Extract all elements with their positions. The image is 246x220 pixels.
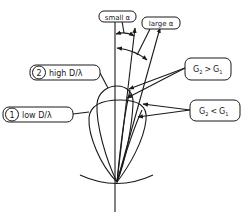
small-alpha-leader bbox=[122, 21, 124, 33]
low-text: low D/λ bbox=[22, 111, 52, 120]
low-leader bbox=[73, 112, 89, 114]
g2-less-g1-label: G2<G1 bbox=[190, 100, 240, 121]
small-alpha-text: small α bbox=[105, 14, 131, 22]
low-number: 1 bbox=[9, 111, 14, 120]
g2-greater-g1-label: G2>G1 bbox=[185, 58, 231, 80]
g-greater-pointer-2 bbox=[127, 68, 185, 98]
small-alpha-angle-arc bbox=[116, 33, 134, 36]
g-less-pointer-1 bbox=[143, 104, 190, 110]
large-alpha-label: large α bbox=[142, 17, 180, 29]
svg-text:G2>G1: G2>G1 bbox=[193, 65, 222, 75]
g-greater-pointer-1 bbox=[129, 68, 185, 89]
large-alpha-leader bbox=[137, 29, 150, 55]
large-alpha-text: large α bbox=[149, 20, 174, 28]
small-alpha-label: small α bbox=[99, 11, 136, 22]
high-d-lambda-label: 2 high D/λ bbox=[30, 65, 100, 80]
high-leader bbox=[100, 73, 108, 88]
low-d-lambda-label: 1 low D/λ bbox=[3, 107, 73, 122]
antenna-lobe-diagram: small α large α 2 high D/λ 1 low D/λ G2>… bbox=[0, 0, 246, 220]
svg-text:G2<G1: G2<G1 bbox=[199, 107, 228, 117]
high-number: 2 bbox=[36, 69, 41, 78]
high-text: high D/λ bbox=[49, 69, 83, 78]
